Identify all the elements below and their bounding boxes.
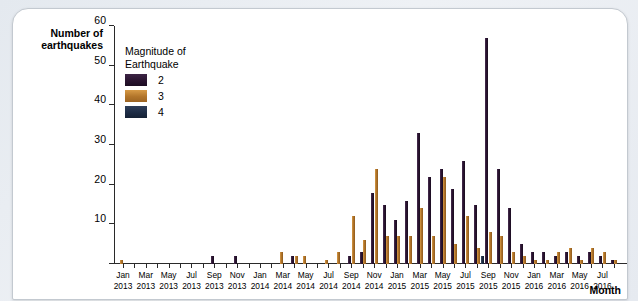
bar xyxy=(614,260,617,264)
y-tick-label: 60 xyxy=(94,14,106,26)
x-tick xyxy=(420,264,421,268)
bar xyxy=(603,252,606,264)
x-tick xyxy=(602,264,603,268)
legend-title-line1: Magnitude of xyxy=(125,45,186,58)
y-axis-title: Number of earthquakes xyxy=(35,27,103,51)
x-tick xyxy=(351,264,352,268)
bar xyxy=(481,256,484,264)
bar xyxy=(352,216,355,264)
bar xyxy=(489,232,492,264)
x-tick xyxy=(340,264,341,268)
x-tick xyxy=(249,264,250,268)
bar xyxy=(375,169,378,264)
bar xyxy=(120,260,123,264)
bar xyxy=(591,248,594,264)
bar xyxy=(546,260,549,264)
x-tick xyxy=(431,264,432,268)
x-tick xyxy=(169,264,170,268)
bar xyxy=(512,252,515,264)
bar xyxy=(386,236,389,264)
x-tick xyxy=(203,264,204,268)
x-tick xyxy=(260,264,261,268)
legend-swatch xyxy=(125,74,147,86)
bar xyxy=(432,236,435,264)
bar xyxy=(234,256,237,264)
x-tick xyxy=(226,264,227,268)
x-tick xyxy=(271,264,272,268)
x-tick xyxy=(214,264,215,268)
x-tick xyxy=(317,264,318,268)
y-tick xyxy=(109,104,114,105)
chart-canvas: Number of earthquakes Month 102030405060… xyxy=(13,9,627,299)
legend-entry: 4 xyxy=(125,106,186,118)
bar xyxy=(409,236,412,264)
legend-label: 2 xyxy=(158,74,164,86)
x-tick xyxy=(534,264,535,268)
screenshot-root: Number of earthquakes Month 102030405060… xyxy=(0,0,638,301)
bar xyxy=(420,208,423,264)
x-tick xyxy=(397,264,398,268)
x-tick xyxy=(500,264,501,268)
legend-label: 4 xyxy=(158,106,164,118)
bar xyxy=(466,216,469,264)
x-tick xyxy=(477,264,478,268)
bar xyxy=(280,252,283,264)
x-tick xyxy=(511,264,512,268)
legend-entry: 2 xyxy=(125,74,186,86)
y-tick-label: 30 xyxy=(94,133,106,145)
x-tick xyxy=(488,264,489,268)
bar xyxy=(485,38,488,264)
x-tick xyxy=(568,264,569,268)
x-tick xyxy=(157,264,158,268)
legend-swatch xyxy=(125,90,147,102)
y-tick-label: 40 xyxy=(94,93,106,105)
y-tick xyxy=(109,184,114,185)
y-tick xyxy=(109,223,114,224)
y-tick xyxy=(109,65,114,66)
y-tick xyxy=(109,263,114,264)
bar xyxy=(454,244,457,264)
bar xyxy=(569,248,572,264)
bar xyxy=(325,260,328,264)
x-tick xyxy=(408,264,409,268)
x-tick xyxy=(283,264,284,268)
x-tick xyxy=(306,264,307,268)
legend-label: 3 xyxy=(158,90,164,102)
x-tick-label: Jul2016 xyxy=(585,270,619,291)
chart-card: Number of earthquakes Month 102030405060… xyxy=(12,8,628,300)
bar xyxy=(303,256,306,264)
bar xyxy=(337,252,340,264)
legend-title-line2: Earthquake xyxy=(125,58,186,71)
x-tick xyxy=(294,264,295,268)
x-tick xyxy=(591,264,592,268)
y-tick-label: 20 xyxy=(94,173,106,185)
x-tick xyxy=(237,264,238,268)
x-tick xyxy=(557,264,558,268)
legend-entries: 234 xyxy=(125,74,186,118)
legend-entry: 3 xyxy=(125,90,186,102)
y-axis-line xyxy=(114,26,115,264)
bar xyxy=(295,256,298,264)
x-tick xyxy=(180,264,181,268)
x-tick xyxy=(363,264,364,268)
bar xyxy=(211,256,214,264)
x-tick xyxy=(580,264,581,268)
x-tick xyxy=(191,264,192,268)
plot-area: 102030405060 Jan2013Mar2013May2013Jul201… xyxy=(114,26,628,264)
x-tick xyxy=(545,264,546,268)
x-tick xyxy=(454,264,455,268)
y-tick-label: 50 xyxy=(94,54,106,66)
y-tick xyxy=(109,25,114,26)
x-tick xyxy=(386,264,387,268)
x-tick xyxy=(328,264,329,268)
x-tick xyxy=(614,264,615,268)
x-tick-label-year: 2016 xyxy=(585,281,619,292)
x-tick xyxy=(523,264,524,268)
bar xyxy=(363,240,366,264)
x-tick xyxy=(134,264,135,268)
bar xyxy=(523,256,526,264)
x-tick xyxy=(123,264,124,268)
bar xyxy=(397,236,400,264)
bar xyxy=(557,252,560,264)
bar xyxy=(500,236,503,264)
